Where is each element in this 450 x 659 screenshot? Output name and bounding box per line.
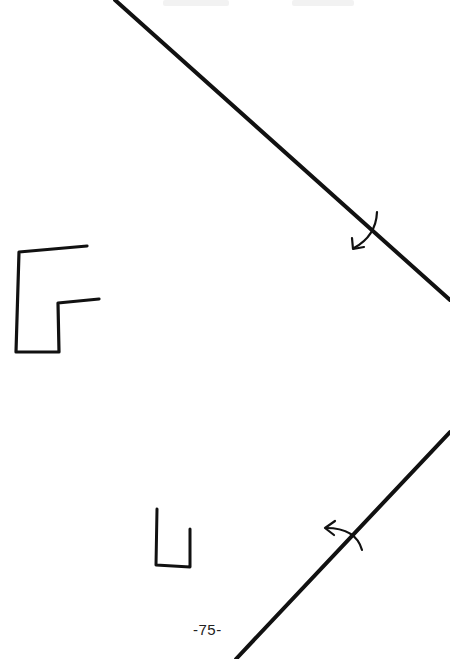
upper-fold-line [115,0,450,300]
diagram-drawing [0,0,450,659]
lower-fold-line [236,432,450,659]
document-page: -75- [0,0,450,659]
large-bracket-shape [16,246,99,352]
page-number: -75- [193,621,222,638]
small-u-shape [156,509,190,567]
